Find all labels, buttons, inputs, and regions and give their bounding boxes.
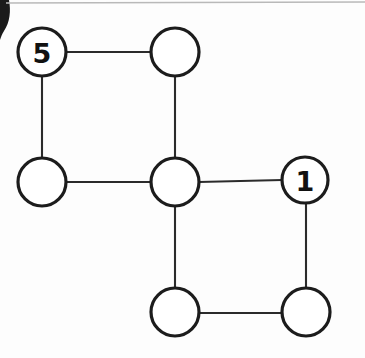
graph-node-mid-right[interactable]: 1 (282, 157, 328, 203)
node-circle[interactable] (282, 288, 330, 336)
nodes-layer: 51 (18, 28, 330, 336)
graph-node-bottom-right[interactable] (282, 288, 330, 336)
node-circle[interactable] (18, 158, 66, 206)
node-label: 5 (33, 38, 52, 69)
node-label: 1 (296, 166, 315, 197)
node-circle[interactable] (151, 158, 199, 206)
graph-node-bottom-center[interactable] (151, 288, 199, 336)
graph-edge-center-to-mid-right (199, 180, 282, 182)
graph-node-top-center[interactable] (151, 28, 199, 76)
node-circle[interactable] (151, 28, 199, 76)
diagram-canvas: 51 (0, 0, 365, 358)
node-circle[interactable] (151, 288, 199, 336)
corner-scan-artifact-icon (0, 0, 10, 40)
graph-node-center[interactable] (151, 158, 199, 206)
graph-figure: 51 (0, 0, 365, 358)
top-scan-line (6, 2, 365, 3)
graph-node-top-left[interactable]: 5 (18, 28, 66, 76)
graph-node-mid-left[interactable] (18, 158, 66, 206)
